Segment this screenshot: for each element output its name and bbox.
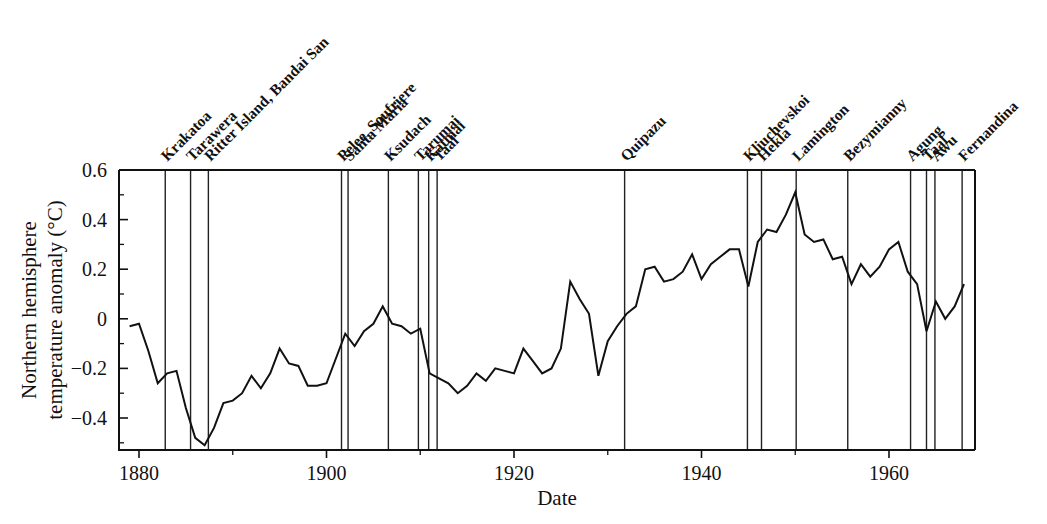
x-tick-label: 1920 xyxy=(494,462,534,484)
volcano-event-label: Quipazu xyxy=(617,112,669,164)
volcano-event-lines xyxy=(165,170,962,450)
y-axis-title-line1: Northern hemisphere xyxy=(17,221,41,399)
x-tick-label: 1940 xyxy=(682,462,722,484)
y-tick-label: 0.2 xyxy=(82,258,107,280)
volcano-event-label: Bezymianny xyxy=(840,94,910,164)
y-tick-label: −0.2 xyxy=(71,357,107,379)
temperature-series-line xyxy=(130,192,964,445)
x-tick-label: 1880 xyxy=(119,462,159,484)
volcano-event-label: Fernandina xyxy=(954,97,1021,164)
y-tick-labels: −0.4−0.200.20.40.6 xyxy=(71,159,107,429)
chart-axes xyxy=(119,170,975,458)
volcano-event-label: Ritter Island, Bandai San xyxy=(200,33,331,164)
x-axis-title: Date xyxy=(537,486,577,510)
y-tick-label: −0.4 xyxy=(71,407,107,429)
volcano-event-labels: KrakatoaTaraweraRitter Island, Bandai Sa… xyxy=(157,33,1021,164)
x-tick-label: 1900 xyxy=(307,462,347,484)
x-tick-label: 1960 xyxy=(869,462,909,484)
y-axis-title-line2: temperature anomaly (°C) xyxy=(43,200,67,419)
temperature-anomaly-chart: KrakatoaTaraweraRitter Island, Bandai Sa… xyxy=(0,0,1047,524)
chart-canvas: KrakatoaTaraweraRitter Island, Bandai Sa… xyxy=(0,0,1047,524)
x-tick-labels: 18801900192019401960 xyxy=(119,462,909,484)
y-tick-label: 0 xyxy=(97,308,107,330)
y-tick-label: 0.6 xyxy=(82,159,107,181)
y-tick-label: 0.4 xyxy=(82,209,107,231)
